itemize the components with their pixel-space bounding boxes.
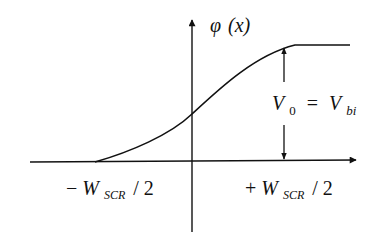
- potential-diagram: φ (x) V 0 = V bi − W SCR / 2 + W SCR / 2: [0, 0, 376, 252]
- w-sub-left: SCR: [104, 188, 126, 202]
- half-left: / 2: [133, 177, 154, 199]
- vbi-label: V 0 = V bi: [272, 92, 357, 119]
- vbi-main: V: [329, 92, 344, 114]
- half-right: / 2: [312, 177, 333, 199]
- x-axis: [30, 160, 356, 162]
- w-sub-right: SCR: [283, 188, 305, 202]
- w-main-right: W: [261, 177, 280, 199]
- y-axis-label: φ (x): [210, 14, 251, 37]
- minus-sign: −: [66, 177, 77, 199]
- equals-sign: =: [307, 92, 318, 114]
- phi-arg: (x): [228, 14, 251, 37]
- x-label-left: − W SCR / 2: [66, 177, 154, 203]
- vbi-sub: bi: [346, 103, 357, 118]
- phi-symbol: φ: [210, 14, 221, 37]
- plus-sign: +: [245, 177, 256, 199]
- v0-main: V: [272, 92, 287, 114]
- x-label-right: + W SCR / 2: [245, 177, 333, 203]
- w-main-left: W: [82, 177, 101, 199]
- v0-sub: 0: [289, 103, 296, 118]
